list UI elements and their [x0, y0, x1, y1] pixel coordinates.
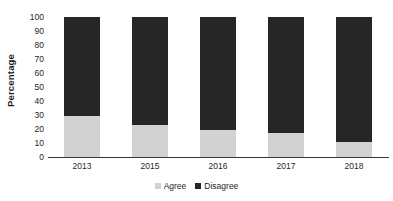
stacked-bar-chart: Percentage 1009080706050403020100 201320…: [0, 0, 393, 201]
y-axis-tick-label: 10: [35, 138, 44, 148]
legend-label: Disagree: [204, 181, 238, 191]
bar-segment-disagree[interactable]: [200, 17, 236, 130]
bar-stack: [200, 17, 236, 157]
y-axis-tick-label: 40: [35, 96, 44, 106]
y-axis-tick-label: 80: [35, 40, 44, 50]
bar-segment-disagree[interactable]: [336, 17, 372, 142]
y-axis-title-label: Percentage: [6, 53, 17, 106]
bar-group[interactable]: [200, 17, 236, 157]
bar-group[interactable]: [268, 17, 304, 157]
x-axis-tick-label: 2015: [141, 161, 160, 171]
x-axis-tick-labels: 20132015201620172018: [48, 161, 388, 175]
y-axis-title: Percentage: [0, 0, 22, 160]
bar-segment-agree[interactable]: [336, 142, 372, 157]
bar-segment-disagree[interactable]: [64, 17, 100, 116]
bar-segment-agree[interactable]: [64, 116, 100, 157]
y-axis-tick-label: 70: [35, 54, 44, 64]
bar-group[interactable]: [336, 17, 372, 157]
bar-stack: [132, 17, 168, 157]
y-axis-tick-labels: 1009080706050403020100: [22, 12, 46, 158]
bar-segment-agree[interactable]: [200, 130, 236, 157]
legend-item[interactable]: Agree: [155, 181, 187, 191]
legend-item[interactable]: Disagree: [195, 181, 238, 191]
y-axis-tick-label: 90: [35, 26, 44, 36]
bar-stack: [64, 17, 100, 157]
legend-swatch-icon: [195, 183, 201, 189]
y-axis-tick-label: 0: [39, 152, 44, 162]
bar-segment-agree[interactable]: [132, 125, 168, 157]
legend-label: Agree: [164, 181, 187, 191]
x-axis-tick-label: 2016: [209, 161, 228, 171]
bar-group[interactable]: [64, 17, 100, 157]
bar-stack: [336, 17, 372, 157]
y-axis-tick-label: 100: [30, 12, 44, 22]
bar-segment-disagree[interactable]: [268, 17, 304, 133]
plot-area: [48, 17, 388, 157]
x-axis-line: [48, 157, 389, 158]
bar-segment-agree[interactable]: [268, 133, 304, 157]
x-axis-tick-label: 2018: [345, 161, 364, 171]
y-axis-tick-label: 30: [35, 110, 44, 120]
y-axis-tick-label: 50: [35, 82, 44, 92]
y-axis-tick-label: 20: [35, 124, 44, 134]
bar-segment-disagree[interactable]: [132, 17, 168, 125]
x-axis-tick-label: 2013: [73, 161, 92, 171]
x-axis-tick-label: 2017: [277, 161, 296, 171]
bar-group[interactable]: [132, 17, 168, 157]
chart-legend: AgreeDisagree: [0, 181, 393, 191]
legend-swatch-icon: [155, 183, 161, 189]
y-axis-tick-label: 60: [35, 68, 44, 78]
bar-stack: [268, 17, 304, 157]
